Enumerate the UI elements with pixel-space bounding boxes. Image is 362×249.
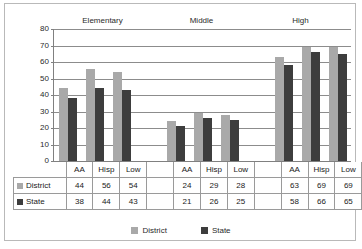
table-cell: 56	[93, 178, 120, 194]
legend-item-state: State	[201, 226, 231, 235]
data-table: AAHispLowAAHispLowAAHispLowDistrict44565…	[13, 162, 362, 210]
table-cell: 28	[227, 178, 254, 194]
y-axis-tick-label: 10	[40, 141, 49, 149]
y-axis-tick-label: 20	[40, 124, 49, 132]
table-cell: 25	[227, 194, 254, 210]
bar-columns	[54, 29, 351, 161]
row-label-text: State	[26, 197, 45, 206]
column-header: Hisp	[308, 162, 335, 178]
table-cell: 58	[281, 194, 308, 210]
state-swatch-icon	[201, 227, 208, 234]
table-cell: 65	[335, 194, 362, 210]
row-label-state: State	[14, 194, 67, 210]
bar-column	[216, 29, 243, 161]
y-axis-tick-label: 70	[40, 42, 49, 50]
y-axis-tick-label: 60	[40, 58, 49, 66]
table-cell: 69	[308, 178, 335, 194]
legend-item-district: District	[131, 226, 166, 235]
bar-state	[284, 65, 293, 161]
table-cell: 66	[308, 194, 335, 210]
table-cell: 44	[93, 194, 120, 210]
bar-state	[230, 120, 239, 161]
table-cell: 26	[200, 194, 227, 210]
column-header: Low	[335, 162, 362, 178]
table-cell: 24	[174, 178, 201, 194]
table-cell: 54	[120, 178, 147, 194]
bar-column	[135, 29, 162, 161]
bar-column	[108, 29, 135, 161]
district-swatch-icon	[17, 183, 23, 189]
column-header-spacer	[147, 162, 174, 178]
y-axis-tick-label: 30	[40, 108, 49, 116]
table-cell: 29	[200, 178, 227, 194]
bar-state	[176, 126, 185, 161]
column-header: AA	[281, 162, 308, 178]
column-header: AA	[66, 162, 93, 178]
column-header: AA	[174, 162, 201, 178]
table-cell-spacer	[254, 194, 281, 210]
bar-pair	[297, 29, 324, 161]
table-cell: 63	[281, 178, 308, 194]
group-label-high: High	[251, 14, 350, 28]
column-header: Low	[120, 162, 147, 178]
bar-pair	[81, 29, 108, 161]
table-cell: 21	[174, 194, 201, 210]
bar-pair	[324, 29, 351, 161]
bar-state	[338, 54, 347, 161]
plot-area: 01020304050607080	[53, 29, 351, 162]
bar-pair	[54, 29, 81, 161]
y-axis-tick-label: 80	[40, 25, 49, 33]
column-header: Low	[227, 162, 254, 178]
column-header: Hisp	[93, 162, 120, 178]
column-header: Hisp	[200, 162, 227, 178]
table-cell: 38	[66, 194, 93, 210]
bar-state	[203, 118, 212, 161]
y-axis-tick-label: 40	[40, 91, 49, 99]
bar-column	[324, 29, 351, 161]
bar-district	[194, 113, 203, 161]
bar-state	[122, 90, 131, 161]
bar-column	[81, 29, 108, 161]
group-label-elementary: Elementary	[53, 14, 152, 28]
bar-pair	[189, 29, 216, 161]
legend-label-state: State	[212, 226, 231, 235]
table-cell-spacer	[147, 194, 174, 210]
bar-district	[167, 121, 176, 161]
table-header-row: AAHispLowAAHispLowAAHispLow	[14, 162, 362, 178]
column-header-spacer	[254, 162, 281, 178]
bar-district	[275, 57, 284, 161]
bar-column	[54, 29, 81, 161]
bar-district	[221, 115, 230, 161]
bar-pair	[162, 29, 189, 161]
chart-frame: Elementary Middle High 01020304050607080…	[4, 3, 356, 241]
bar-pair	[108, 29, 135, 161]
bar-state	[311, 52, 320, 161]
bar-column	[162, 29, 189, 161]
chart-legend: District State	[5, 226, 357, 235]
bar-district	[113, 72, 122, 161]
bar-pair	[270, 29, 297, 161]
table-row: State384443212625586665	[14, 194, 362, 210]
data-table-wrap: AAHispLowAAHispLowAAHispLowDistrict44565…	[13, 162, 350, 210]
table-cell: 69	[335, 178, 362, 194]
y-axis-tick-label: 50	[40, 75, 49, 83]
row-label-text: District	[26, 181, 50, 190]
table-cell: 43	[120, 194, 147, 210]
bar-district	[302, 47, 311, 161]
legend-label-district: District	[142, 226, 166, 235]
group-label-middle: Middle	[152, 14, 251, 28]
table-cell: 44	[66, 178, 93, 194]
bar-district	[329, 47, 338, 161]
table-cell-spacer	[254, 178, 281, 194]
bar-column	[297, 29, 324, 161]
bar-district	[86, 69, 95, 161]
district-swatch-icon	[131, 227, 138, 234]
bar-column	[189, 29, 216, 161]
table-row: District445654242928636969	[14, 178, 362, 194]
bar-state	[68, 98, 77, 161]
table-cell-spacer	[147, 178, 174, 194]
bar-district	[59, 88, 68, 161]
bar-state	[95, 88, 104, 161]
bar-column	[243, 29, 270, 161]
bar-pair	[216, 29, 243, 161]
